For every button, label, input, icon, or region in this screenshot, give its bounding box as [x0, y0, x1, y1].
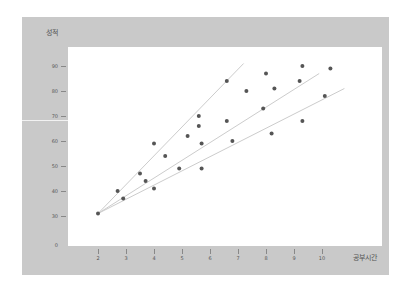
data-point: [270, 132, 274, 136]
trend-line-fit-middle: [98, 74, 319, 214]
data-point: [244, 89, 248, 93]
data-point: [261, 107, 265, 111]
data-point: [197, 124, 201, 128]
scatter-plot: [0, 0, 409, 294]
data-point: [230, 139, 234, 143]
data-point: [177, 167, 181, 171]
data-point: [225, 119, 229, 123]
data-point: [197, 114, 201, 118]
data-point: [264, 72, 268, 76]
data-point: [323, 94, 327, 98]
data-point: [200, 167, 204, 171]
data-point: [163, 154, 167, 158]
data-point: [272, 87, 276, 91]
data-point: [186, 134, 190, 138]
data-point: [300, 64, 304, 68]
data-point: [298, 79, 302, 83]
data-point: [116, 189, 120, 193]
data-point: [152, 142, 156, 146]
trend-lines: [98, 64, 344, 214]
trend-line-fit-shallow: [98, 89, 344, 214]
data-point: [200, 142, 204, 146]
data-point: [121, 197, 125, 201]
data-point: [144, 179, 148, 183]
data-point: [225, 79, 229, 83]
data-point: [138, 172, 142, 176]
data-point: [152, 187, 156, 191]
data-point: [300, 119, 304, 123]
data-point: [96, 212, 100, 216]
data-point: [328, 67, 332, 71]
trend-line-fit-steep: [98, 64, 244, 214]
